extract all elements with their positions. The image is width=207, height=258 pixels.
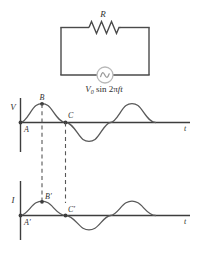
- current-point-c-prime-label: C′: [68, 205, 75, 214]
- voltage-point-a-label: A: [23, 125, 29, 134]
- dashed-connectors: [42, 104, 66, 203]
- voltage-x-axis-label: t: [184, 124, 187, 133]
- current-point-a-prime-marker: [19, 214, 23, 218]
- circuit-diagram: R V0 sin 2πft: [60, 9, 149, 95]
- current-y-axis-label: I: [11, 195, 16, 205]
- current-point-b-prime-label: B′: [45, 192, 52, 201]
- voltage-y-axis-label: V: [10, 102, 17, 112]
- source-label: V0 sin 2πft: [85, 84, 123, 95]
- voltage-point-b-label: B: [40, 93, 45, 102]
- source-label-sin: sin 2: [94, 84, 114, 94]
- voltage-point-c-label: C: [68, 111, 74, 120]
- resistor-label: R: [99, 9, 106, 19]
- current-x-axis-label: t: [184, 217, 187, 226]
- current-point-b-prime-marker: [40, 200, 44, 204]
- figure-canvas: R V0 sin 2πft A B C V t: [0, 0, 207, 258]
- voltage-point-a-marker: [19, 121, 23, 125]
- voltage-plot: A B C V t: [10, 93, 190, 152]
- current-plot: A′ B′ C′ I t: [11, 181, 191, 240]
- current-point-c-prime-marker: [64, 214, 68, 218]
- ac-circuit-figure: R V0 sin 2πft A B C V t: [0, 0, 207, 258]
- current-point-a-prime-label: A′: [23, 218, 31, 227]
- source-label-t: t: [120, 84, 123, 94]
- resistor-symbol: [89, 22, 121, 34]
